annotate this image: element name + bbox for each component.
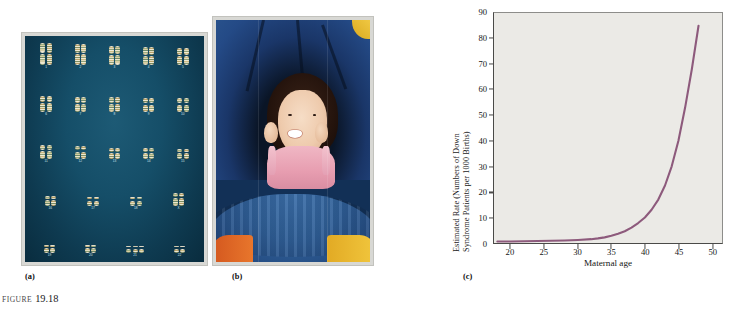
x-tick-label: 25 — [539, 248, 548, 257]
chromosome — [149, 47, 154, 65]
chromosome — [47, 96, 52, 112]
y-tick-mark — [489, 37, 494, 38]
chromosome-group-15: 15 — [177, 137, 189, 163]
child-hand-left — [264, 122, 278, 144]
karyotype-row: 19202122 — [29, 231, 200, 257]
y-tick-mark — [489, 218, 494, 219]
chromosome-pair — [174, 231, 186, 253]
y-tick-mark — [489, 166, 494, 167]
chromosome-group-11: 11 — [40, 137, 52, 163]
panel-b-child-photo — [213, 17, 373, 265]
chromosome — [115, 148, 120, 159]
chromosome-group-10: 10 — [177, 90, 189, 116]
chromosome — [137, 197, 142, 206]
chromosome — [143, 47, 148, 65]
y-tick-label: 80 — [449, 33, 493, 42]
y-tick-label: 70 — [449, 59, 493, 68]
x-tick-mark — [509, 244, 510, 249]
chromosome-number-label: 21 — [133, 254, 137, 257]
panel-label-a: (a) — [25, 272, 35, 281]
panel-c-chart: Estimated Rate (Numbers of Down Syndrome… — [448, 8, 738, 270]
x-tick-mark — [611, 244, 612, 249]
chromosome-pair — [177, 137, 189, 159]
chromosome — [177, 48, 182, 65]
chromosome — [109, 97, 114, 112]
chromosome — [177, 98, 182, 112]
panel-label-c: (c) — [463, 272, 472, 281]
x-tick-label: 35 — [607, 248, 616, 257]
figure-caption-prefix: FIGURE — [2, 295, 32, 304]
chromosome — [81, 44, 86, 65]
chromosome-number-label: 17 — [91, 207, 95, 210]
chromosome-group-8: 8 — [109, 90, 121, 116]
chromosome — [143, 148, 148, 159]
chromosome — [87, 197, 92, 206]
chromosome-pair — [177, 90, 189, 112]
chromosome-number-label: 5 — [182, 66, 184, 69]
chromosome-group-3: 3 — [109, 43, 121, 69]
chromosome-group-7: 7 — [75, 90, 87, 116]
chromosome — [180, 246, 185, 253]
chromosome-group-19: 19 — [44, 231, 56, 257]
chromosome-pair — [177, 43, 189, 65]
chromosome — [47, 145, 52, 159]
karyotype-row: 12345 — [29, 43, 200, 69]
chromosome-pair — [85, 231, 97, 253]
chromosome — [85, 245, 90, 253]
chromosome-number-label: 19 — [48, 254, 52, 257]
chart-plot-outer: 0102030405060708090 20253035404550 — [493, 12, 723, 260]
chromosome-number-label: 15 — [181, 160, 185, 163]
chromosome — [81, 146, 86, 159]
x-tick-label: 20 — [506, 248, 515, 257]
chromosome-group-17: 17 — [87, 184, 99, 210]
figure-number: 19.18 — [35, 293, 58, 304]
chromosome-pair — [143, 43, 155, 65]
y-tick-label: 0 — [449, 240, 493, 249]
panel-a-karyotype: 123456789101112131415161718X19202122 — [22, 33, 207, 265]
chromosome-number-label: 3 — [114, 66, 116, 69]
chromosome-number-label: 12 — [79, 160, 83, 163]
chromosome — [109, 46, 114, 65]
y-tick-label: 40 — [449, 137, 493, 146]
chromosome — [174, 246, 179, 253]
chromosome-number-label: 4 — [148, 66, 150, 69]
chromosome — [149, 148, 154, 159]
chromosome-pair — [109, 90, 121, 112]
chromosome-number-label: X — [178, 207, 180, 210]
chromosome-number-label: 6 — [45, 113, 47, 116]
chromosome — [47, 43, 52, 65]
chromosome-pair — [130, 184, 142, 206]
x-tick-label: 50 — [709, 248, 718, 257]
x-tick-mark — [645, 244, 646, 249]
chromosome-group-16: 16 — [45, 184, 57, 210]
chromosome-group-5: 5 — [177, 43, 189, 69]
chromosome-group-13: 13 — [109, 137, 121, 163]
chart-x-axis-label: Maternal age — [493, 258, 723, 268]
child-smile — [288, 130, 302, 138]
chromosome — [50, 245, 55, 253]
chromosome — [126, 246, 131, 253]
chromosome-group-20: 20 — [85, 231, 97, 257]
chromosome-number-label: 20 — [89, 254, 93, 257]
chromosome-number-label: 9 — [148, 113, 150, 116]
chart-line-series — [494, 13, 722, 243]
karyotype-plate: 123456789101112131415161718X19202122 — [25, 36, 204, 262]
chromosome-group-9: 9 — [143, 90, 155, 116]
chromosome-group-4: 4 — [143, 43, 155, 69]
chromosome-pair — [109, 43, 121, 65]
chromosome — [94, 197, 99, 206]
chromosome-pair — [75, 90, 87, 112]
child-eye-right — [313, 114, 316, 116]
chromosome — [177, 149, 182, 159]
chromosome-group-6: 6 — [40, 90, 52, 116]
x-tick-mark — [543, 244, 544, 249]
chromosome-pair — [126, 231, 144, 253]
chart-plot-area — [493, 12, 723, 244]
chromosome — [184, 98, 189, 112]
chromosome-pair — [40, 90, 52, 112]
child-eye-left — [288, 114, 291, 116]
chromosome — [45, 196, 50, 206]
chromosome-pair — [143, 137, 155, 159]
x-tick-label: 40 — [641, 248, 650, 257]
orange-accent — [216, 235, 253, 262]
